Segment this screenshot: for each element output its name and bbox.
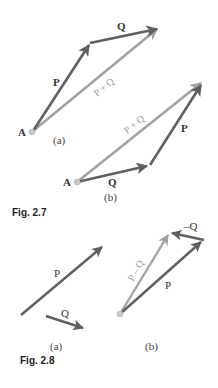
vector-p bbox=[150, 85, 201, 165]
label-p: P bbox=[181, 122, 188, 134]
label-minus-q: –Q bbox=[183, 220, 198, 232]
sub-label-a: (a) bbox=[50, 340, 63, 353]
fig-2-7-panel-b: P + Q P Q A (b) bbox=[63, 83, 201, 204]
label-p: P bbox=[165, 279, 171, 291]
sub-label-b: (b) bbox=[145, 340, 158, 353]
figure-caption: Fig. 2.7 bbox=[12, 207, 47, 218]
origin-point bbox=[117, 311, 123, 317]
label-q: Q bbox=[108, 176, 117, 188]
vector-minus-q bbox=[172, 233, 204, 240]
origin-point-a bbox=[74, 179, 80, 185]
label-p: P bbox=[54, 267, 60, 279]
label-origin-a: A bbox=[63, 176, 71, 188]
figure-caption: Fig. 2.8 bbox=[20, 355, 55, 366]
fig-2-8-panel-a: P Q (a) bbox=[21, 247, 102, 353]
sub-label-a: (a) bbox=[53, 134, 66, 147]
vector-p bbox=[21, 247, 102, 315]
vector-addition-diagram: P Q P + Q A (a) P + Q P Q A (b) Fig. 2.7… bbox=[0, 0, 218, 388]
fig-2-8-panel-b: –Q P – Q P (b) bbox=[117, 220, 204, 353]
label-p-plus-q: P + Q bbox=[121, 112, 147, 135]
label-q: Q bbox=[61, 307, 69, 319]
label-q: Q bbox=[117, 20, 126, 32]
vector-p bbox=[33, 45, 89, 131]
label-p: P bbox=[53, 76, 60, 88]
sub-label-b: (b) bbox=[104, 191, 117, 204]
label-p-minus-q: P – Q bbox=[125, 257, 146, 283]
label-origin-a: A bbox=[18, 126, 26, 138]
origin-point-a bbox=[29, 129, 35, 135]
